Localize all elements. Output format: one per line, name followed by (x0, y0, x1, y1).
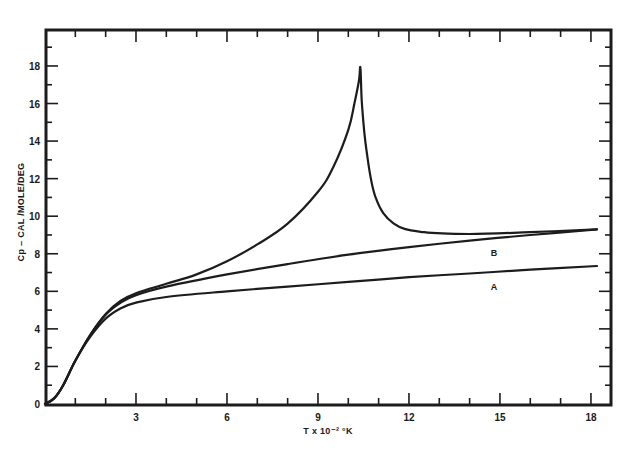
y-axis-ticks: 024681012141618 (29, 47, 611, 410)
curve-label-a: A (491, 282, 498, 292)
curve-label-b: B (491, 248, 498, 258)
plot-frame (46, 30, 611, 405)
x-tick-label: 18 (585, 412, 597, 423)
x-axis-title: T x 10⁻² °K (303, 426, 353, 436)
curve-labels: BA (491, 248, 498, 293)
curve-a (45, 266, 597, 404)
x-tick-label: 12 (403, 412, 415, 423)
data-curves (45, 67, 597, 404)
y-tick-label: 4 (34, 324, 40, 335)
y-tick-label: 14 (29, 136, 41, 147)
x-tick-label: 15 (494, 412, 506, 423)
y-tick-label: 12 (29, 174, 41, 185)
y-tick-label: 16 (29, 99, 41, 110)
x-tick-label: 3 (133, 412, 139, 423)
curve-b (45, 229, 597, 404)
y-tick-label: 2 (34, 361, 40, 372)
y-tick-label: 0 (34, 399, 40, 410)
y-tick-label: 8 (34, 249, 40, 260)
heat-capacity-chart: 024681012141618 369121518 BA T x 10⁻² °K… (0, 0, 630, 450)
y-tick-label: 10 (29, 211, 41, 222)
x-tick-label: 9 (315, 412, 321, 423)
y-tick-label: 6 (34, 286, 40, 297)
y-axis-title: Cp – CAL /MOLE/DEG (16, 163, 26, 262)
x-tick-label: 6 (224, 412, 230, 423)
plot-border (46, 30, 611, 405)
x-axis-ticks: 369121518 (75, 30, 597, 423)
y-tick-label: 18 (29, 61, 41, 72)
